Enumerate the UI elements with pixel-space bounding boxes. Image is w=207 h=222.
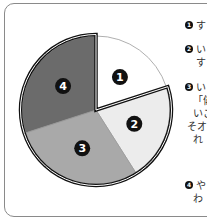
marker-4-icon: 4 [185, 181, 193, 189]
slice-label-3: 3 [78, 142, 86, 155]
marker-3-icon: 3 [185, 83, 193, 91]
slice-label-4: 4 [59, 80, 67, 93]
legend-item-3: 3い 「偁 いこ そオ れ [185, 80, 207, 146]
slice-label-1: 1 [116, 71, 124, 84]
slice-label-2: 2 [130, 118, 138, 131]
pie-chart: 1234 [0, 0, 207, 222]
legend-item-4: 4や わ [185, 178, 206, 205]
legend-item-2: 2い す [185, 42, 206, 69]
marker-1-icon: 1 [185, 21, 193, 29]
marker-2-icon: 2 [185, 45, 193, 53]
legend-item-1: 1す [185, 18, 206, 32]
